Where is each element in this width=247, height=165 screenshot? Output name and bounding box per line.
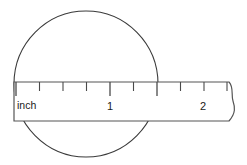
figure-canvas: 12 inch	[0, 0, 247, 165]
ruler-unit-label: inch	[17, 99, 36, 111]
ruler-circle-figure: 12 inch	[0, 0, 247, 165]
ruler-label-2: 2	[200, 100, 206, 112]
ruler-label-1: 1	[107, 100, 113, 112]
